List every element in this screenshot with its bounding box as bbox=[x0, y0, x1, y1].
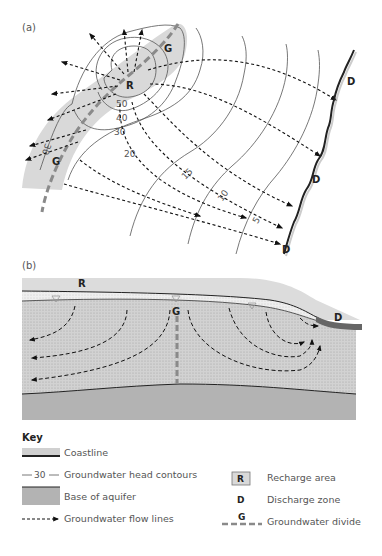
discharge-label-b: D bbox=[334, 312, 342, 323]
panel-b-cross-section: (b) R G bbox=[22, 260, 362, 420]
divide-swatch-label: G bbox=[238, 512, 245, 522]
contour-label-10: 10 bbox=[216, 188, 231, 203]
recharge-swatch-label: R bbox=[237, 474, 244, 484]
key-label-contours: Groundwater head contours bbox=[64, 469, 197, 480]
contour-label-40: 40 bbox=[116, 113, 128, 123]
panel-b-label: (b) bbox=[22, 260, 36, 271]
contour-label-15: 15 bbox=[180, 166, 195, 181]
contour-swatch-label: 30 bbox=[34, 470, 46, 480]
discharge-swatch-label: D bbox=[237, 495, 244, 505]
contour-label-20: 20 bbox=[124, 149, 136, 159]
contour-label-5: 5 bbox=[251, 215, 263, 225]
divide-label-a-top: G bbox=[164, 43, 172, 54]
recharge-label-b: R bbox=[78, 278, 86, 289]
contour-label-50: 50 bbox=[116, 99, 128, 109]
key-label-divide: Groundwater divide bbox=[267, 516, 361, 527]
key-label-aquifer-base: Base of aquifer bbox=[64, 491, 136, 502]
divide-label-b: G bbox=[172, 306, 180, 317]
recharge-area-band bbox=[22, 24, 187, 190]
aquifer-base-swatch bbox=[22, 487, 60, 505]
key-title: Key bbox=[22, 432, 43, 443]
discharge-label-a-3: D bbox=[282, 244, 290, 255]
divide-label-a-left: G bbox=[52, 156, 60, 167]
panel-a-label: (a) bbox=[22, 22, 36, 33]
discharge-label-a-1: D bbox=[347, 76, 355, 87]
key-label-recharge: Recharge area bbox=[267, 472, 336, 483]
recharge-label-a: R bbox=[126, 80, 134, 91]
panel-a-map: (a) 50 40 30 20 bbox=[22, 22, 356, 256]
key-label-coastline: Coastline bbox=[64, 447, 108, 458]
discharge-label-a-2: D bbox=[312, 174, 320, 185]
coastline-swatch bbox=[22, 448, 60, 456]
key-label-flow-lines: Groundwater flow lines bbox=[64, 513, 174, 524]
key-label-discharge: Discharge zone bbox=[267, 494, 340, 505]
